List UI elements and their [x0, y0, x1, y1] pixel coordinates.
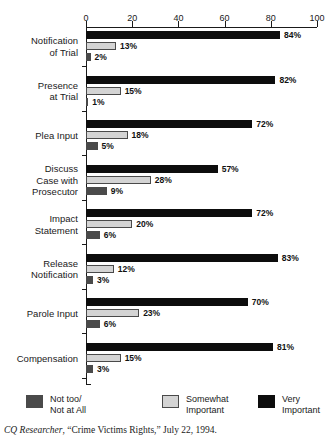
bar-value-label: 81% — [277, 342, 294, 352]
bar-somewhat — [86, 265, 114, 273]
legend-swatch-icon — [26, 395, 43, 408]
category-label: Plea Input — [0, 130, 78, 142]
group-separator-tick — [82, 378, 87, 379]
legend-label: Very Important — [282, 394, 326, 416]
group-separator-tick — [82, 200, 87, 201]
bar-very — [86, 209, 252, 217]
group-separator-tick — [82, 155, 87, 156]
bar-row: 18% — [86, 130, 333, 141]
bar-very — [86, 165, 218, 173]
bar-row: 57% — [86, 164, 333, 175]
bar-value-label: 6% — [104, 230, 116, 240]
category-label: Discuss Case with Prosecutor — [0, 163, 78, 198]
bar-group: Discuss Case with Prosecutor57%28%9% — [0, 164, 333, 198]
bar-row: 15% — [86, 86, 333, 97]
bar-nottoo — [86, 276, 93, 284]
bar-row: 84% — [86, 30, 333, 41]
bar-row: 6% — [86, 230, 333, 241]
bar-row: 6% — [86, 319, 333, 330]
bar-row-stack: 72%20%6% — [86, 208, 333, 241]
caption-source: CQ Researcher — [4, 425, 62, 435]
bar-value-label: 82% — [279, 75, 296, 85]
bar-row-stack: 72%18%5% — [86, 119, 333, 152]
bar-row: 12% — [86, 264, 333, 275]
bar-nottoo — [86, 98, 88, 106]
bar-row-stack: 83%12%3% — [86, 253, 333, 286]
bar-group: Compensation81%15%3% — [0, 342, 333, 376]
chart-legend: Not too/ Not at AllSomewhat ImportantVer… — [26, 394, 326, 420]
axis-tick-mark — [317, 21, 318, 27]
bar-group: Plea Input72%18%5% — [0, 119, 333, 153]
axis-tick-mark — [271, 21, 272, 27]
legend-label: Not too/ Not at All — [50, 394, 86, 416]
bar-row: 83% — [86, 253, 333, 264]
bar-row: 3% — [86, 364, 333, 375]
group-separator-tick — [82, 111, 87, 112]
bar-row: 81% — [86, 342, 333, 353]
legend-label: Somewhat Important — [186, 394, 229, 416]
category-label: Notification of Trial — [0, 35, 78, 58]
bar-somewhat — [86, 131, 128, 139]
bar-row: 13% — [86, 41, 333, 52]
bar-value-label: 3% — [97, 275, 109, 285]
bar-value-label: 15% — [125, 86, 142, 96]
bar-group: Notification of Trial84%13%2% — [0, 30, 333, 64]
bar-value-label: 72% — [256, 208, 273, 218]
bar-value-label: 2% — [95, 52, 107, 62]
bar-value-label: 6% — [104, 319, 116, 329]
category-label: Compensation — [0, 353, 78, 365]
bar-very — [86, 76, 275, 84]
bar-somewhat — [86, 354, 121, 362]
bar-very — [86, 298, 248, 306]
bar-nottoo — [86, 142, 98, 150]
bar-row-stack: 81%15%3% — [86, 342, 333, 375]
bar-very — [86, 120, 252, 128]
bar-chart: 020406080100 Notification of Trial84%13%… — [0, 0, 333, 442]
bar-very — [86, 254, 278, 262]
bar-nottoo — [86, 187, 107, 195]
plot-area: Notification of Trial84%13%2%Presence at… — [0, 28, 333, 386]
bar-row-stack: 84%13%2% — [86, 30, 333, 63]
legend-swatch-icon — [258, 395, 275, 408]
legend-item-very[interactable]: Very Important — [258, 394, 326, 416]
group-separator-tick — [82, 244, 87, 245]
group-separator-tick — [82, 66, 87, 67]
chart-caption: CQ Researcher, “Crime Victims Rights,” J… — [4, 424, 217, 436]
bar-very — [86, 31, 280, 39]
bar-row-stack: 57%28%9% — [86, 164, 333, 197]
bar-value-label: 70% — [252, 297, 269, 307]
bar-row: 9% — [86, 186, 333, 197]
axis-tick-mark — [132, 21, 133, 27]
legend-swatch-icon — [162, 395, 179, 408]
bar-row: 82% — [86, 75, 333, 86]
group-separator-tick — [82, 289, 87, 290]
bar-nottoo — [86, 53, 91, 61]
bar-row: 2% — [86, 52, 333, 63]
bar-value-label: 28% — [155, 175, 172, 185]
bar-row: 20% — [86, 219, 333, 230]
category-label: Parole Input — [0, 308, 78, 320]
bar-value-label: 9% — [111, 186, 123, 196]
bar-group: Presence at Trial82%15%1% — [0, 75, 333, 109]
bar-row: 72% — [86, 119, 333, 130]
category-label: Release Notification — [0, 258, 78, 281]
bar-value-label: 84% — [284, 30, 301, 40]
legend-item-somewhat[interactable]: Somewhat Important — [162, 394, 229, 416]
bar-value-label: 5% — [102, 141, 114, 151]
bar-nottoo — [86, 320, 100, 328]
group-separator-tick — [82, 333, 87, 334]
bar-row: 3% — [86, 275, 333, 286]
category-label: Presence at Trial — [0, 80, 78, 103]
bar-value-label: 83% — [282, 253, 299, 263]
bar-somewhat — [86, 42, 116, 50]
legend-item-nottoo[interactable]: Not too/ Not at All — [26, 394, 86, 416]
bar-group: Parole Input70%23%6% — [0, 297, 333, 331]
bar-value-label: 20% — [136, 219, 153, 229]
bar-row-stack: 70%23%6% — [86, 297, 333, 330]
bar-value-label: 18% — [132, 130, 149, 140]
bar-row: 72% — [86, 208, 333, 219]
bar-somewhat — [86, 176, 151, 184]
bar-value-label: 57% — [222, 164, 239, 174]
bar-row: 28% — [86, 175, 333, 186]
bar-value-label: 3% — [97, 364, 109, 374]
